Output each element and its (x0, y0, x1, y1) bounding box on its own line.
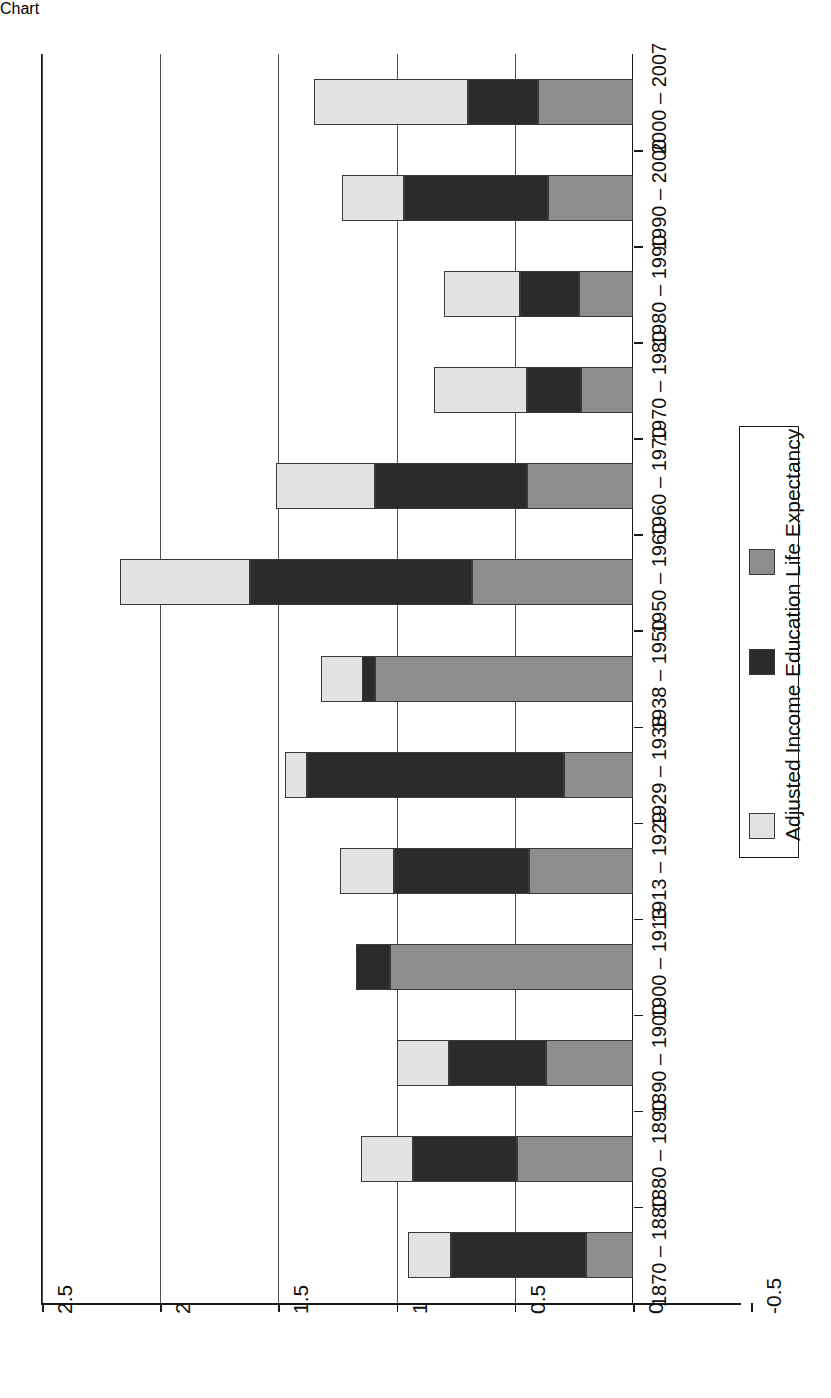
bar-stack (41, 1040, 633, 1086)
bar-segment-lifeexp (564, 752, 633, 798)
value-tick-label: 0.5 (526, 1285, 550, 1314)
bar-stack (41, 1136, 633, 1182)
category-label: 1929 – 1938 (648, 715, 671, 826)
bar-segment-lifeexp (586, 1232, 633, 1278)
value-tick-label: 2.5 (53, 1285, 77, 1314)
bar-stack (41, 1232, 633, 1278)
category-tick (634, 727, 643, 729)
bar-segment-education (520, 271, 579, 317)
category-label: 1870 – 1880 (648, 1196, 671, 1307)
bar-segment-education (413, 1136, 517, 1182)
value-tick-label: 1.5 (289, 1285, 313, 1314)
category-label: 1990 – 2000 (648, 139, 671, 250)
category-tick (634, 1015, 643, 1017)
bar-segment-lifeexp (527, 463, 633, 509)
bar-segment-income (434, 367, 526, 413)
bar-stack (41, 848, 633, 894)
bar-segment-education (449, 1040, 546, 1086)
value-tick (633, 1303, 635, 1312)
bar-segment-education (468, 79, 539, 125)
education-swatch (749, 649, 775, 675)
bar-segment-lifeexp (546, 1040, 633, 1086)
bar-stack (41, 79, 633, 125)
bar-segment-education (527, 367, 581, 413)
bar-stack (41, 559, 633, 605)
legend-label: Life Expectancy (781, 429, 805, 577)
bar-segment-lifeexp (579, 271, 633, 317)
bar-segment-education (307, 752, 565, 798)
bar-stack (41, 463, 633, 509)
bar-stack (41, 271, 633, 317)
bar-segment-education (356, 944, 389, 990)
bar-segment-income (321, 656, 364, 702)
legend-label: Education (781, 584, 805, 677)
value-tick (42, 1303, 44, 1312)
plot-area (41, 54, 633, 1303)
category-label: 2000 – 2007 (648, 43, 671, 154)
bar-segment-lifeexp (581, 367, 633, 413)
bar-stack (41, 656, 633, 702)
category-tick (634, 1111, 643, 1113)
bar-segment-lifeexp (548, 175, 633, 221)
bar-segment-lifeexp (538, 79, 633, 125)
bar-segment-education (404, 175, 548, 221)
value-tick (278, 1303, 280, 1312)
bar-segment-income (340, 848, 394, 894)
chart-legend: Adjusted IncomeEducationLife Expectancy (739, 426, 799, 858)
bar-stack (41, 944, 633, 990)
bar-segment-income (397, 1040, 449, 1086)
category-label: 1900 – 1913 (648, 907, 671, 1018)
legend-label: Adjusted Income (781, 685, 805, 841)
value-tick (397, 1303, 399, 1312)
lifeexp-swatch (749, 549, 775, 575)
bar-segment-education (451, 1232, 586, 1278)
value-axis (41, 1303, 741, 1305)
bar-segment-education (394, 848, 529, 894)
category-label: 1880 – 1890 (648, 1100, 671, 1211)
bar-segment-income (408, 1232, 451, 1278)
category-tick (634, 438, 643, 440)
category-label: 1938 – 1950 (648, 619, 671, 730)
value-tick-label: -0.5 (762, 1278, 786, 1314)
bar-segment-income (314, 79, 468, 125)
value-tick (751, 1303, 753, 1312)
bar-segment-education (375, 463, 526, 509)
category-tick (634, 246, 643, 248)
category-label: 1970 – 1980 (648, 331, 671, 442)
bar-segment-lifeexp (529, 848, 633, 894)
category-label: 1980 – 1990 (648, 235, 671, 346)
category-label: 1950 – 1960 (648, 523, 671, 634)
value-tick-label: 1 (408, 1302, 432, 1314)
bar-segment-lifeexp (390, 944, 633, 990)
category-tick (634, 823, 643, 825)
value-tick (160, 1303, 162, 1312)
bar-segment-income (276, 463, 375, 509)
value-tick (515, 1303, 517, 1312)
category-tick (634, 534, 643, 536)
bar-segment-lifeexp (472, 559, 633, 605)
value-tick-label: 2 (171, 1302, 195, 1314)
category-tick (634, 919, 643, 921)
category-tick (634, 1207, 643, 1209)
bar-stack (41, 752, 633, 798)
bar-segment-income (285, 752, 306, 798)
income-swatch (749, 813, 775, 839)
category-label: 1960 – 1970 (648, 427, 671, 538)
bar-segment-income (361, 1136, 413, 1182)
chart-page: 2.521.510.50-0.5 1870 – 18801880 – 18901… (0, 18, 831, 1398)
category-tick (634, 150, 643, 152)
bar-segment-income (120, 559, 250, 605)
bar-stack (41, 175, 633, 221)
bar-segment-education (250, 559, 472, 605)
bar-stack (41, 367, 633, 413)
bar-segment-lifeexp (375, 656, 633, 702)
bar-segment-lifeexp (517, 1136, 633, 1182)
category-label: 1913 – 1929 (648, 811, 671, 922)
category-label: 1890 – 1900 (648, 1004, 671, 1115)
bar-segment-income (342, 175, 403, 221)
category-tick (634, 630, 643, 632)
bar-segment-income (444, 271, 520, 317)
category-tick (634, 342, 643, 344)
